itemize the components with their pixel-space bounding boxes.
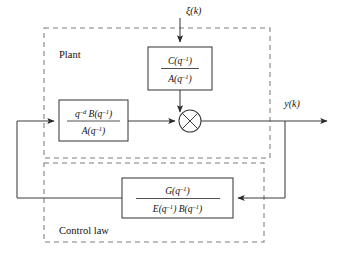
block-diagram-canvas: Plant Control law ξ(k) C(q–1) A(q–1) q–d… — [0, 0, 343, 263]
noise-filter-numerator: C(q–1) — [168, 55, 192, 67]
controller-numerator: G(q–1) — [165, 185, 190, 197]
disturbance-input-label: ξ(k) — [186, 5, 202, 17]
control-law-region-label: Control law — [59, 225, 109, 236]
noise-filter-denominator: A(q–1) — [167, 73, 192, 85]
diagram-svg: Plant Control law ξ(k) C(q–1) A(q–1) q–d… — [0, 0, 343, 263]
plant-transfer-denominator: A(q–1) — [81, 125, 106, 137]
plant-output-label: y(k) — [283, 98, 300, 110]
plant-region-label: Plant — [59, 49, 81, 60]
